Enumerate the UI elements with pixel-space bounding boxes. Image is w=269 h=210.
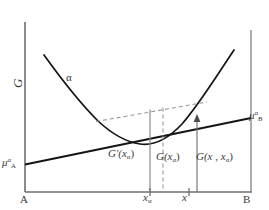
mu-a-subscript: A bbox=[11, 162, 16, 169]
mu-b-subscript: B bbox=[258, 115, 263, 122]
mu-a-intercept-label: μαA bbox=[2, 157, 16, 170]
tick-label-x-alpha: xα bbox=[143, 192, 151, 205]
tick-label-x-alpha-sub: α bbox=[148, 197, 152, 204]
tick-label-x: x bbox=[182, 192, 187, 203]
axis-endpoint-a: A bbox=[20, 194, 28, 205]
alpha-curve bbox=[44, 50, 234, 144]
mu-b-intercept-label: μαB bbox=[249, 110, 263, 123]
annotation-g-x-x-alpha: G(x , xα) bbox=[196, 151, 233, 164]
axis-endpoint-b: B bbox=[243, 194, 250, 205]
y-axis-label: G bbox=[11, 79, 24, 88]
curve-label-alpha: α bbox=[66, 72, 72, 83]
annotation-g-prime-x-alpha: G'(xα) bbox=[108, 148, 134, 161]
annotation-g-x-alpha: G(xα) bbox=[156, 151, 180, 164]
free-energy-diagram bbox=[0, 0, 269, 210]
up-arrow-head-icon bbox=[194, 114, 201, 122]
dashed-tangent-line bbox=[96, 102, 207, 122]
